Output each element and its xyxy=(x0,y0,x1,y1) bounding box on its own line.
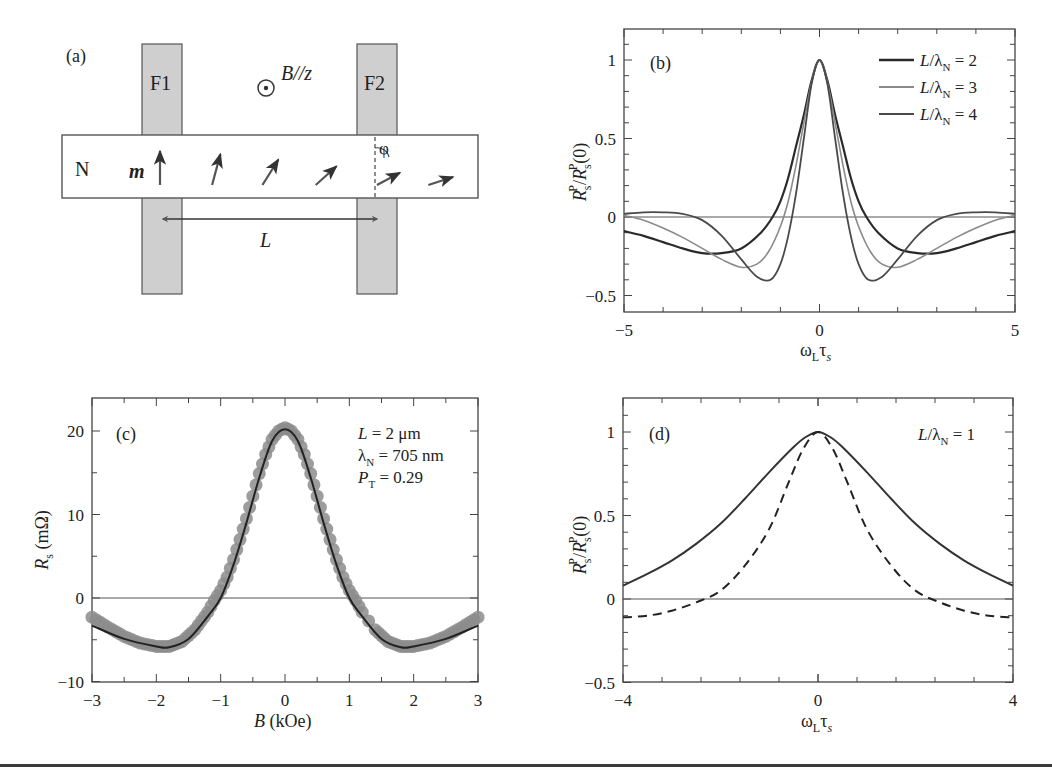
panel-b-xlabel: ωLτs xyxy=(800,340,831,364)
dashed-curve xyxy=(623,432,1013,617)
svg-text:0: 0 xyxy=(608,208,617,227)
svg-text:10: 10 xyxy=(67,506,84,525)
svg-text:ωLτs: ωLτs xyxy=(801,711,832,735)
channel-label: N xyxy=(75,158,89,180)
figure: (a) F1 F2 N B//z m φ L (b) L/λN = 2L/λN … xyxy=(0,0,1052,768)
svg-text:1: 1 xyxy=(607,423,616,442)
angle-label: φ xyxy=(379,139,389,158)
channel-n xyxy=(62,135,478,198)
svg-text:20: 20 xyxy=(67,422,84,441)
panel-d-curves xyxy=(623,432,1013,617)
svg-text:−3: −3 xyxy=(83,691,101,710)
svg-text:L/λN = 4: L/λN = 4 xyxy=(919,105,977,127)
magnetization-label: m xyxy=(129,160,145,182)
svg-text:−4: −4 xyxy=(614,691,633,710)
svg-text:−2: −2 xyxy=(147,691,165,710)
svg-text:0.5: 0.5 xyxy=(595,130,616,149)
panel-d-chart: (d) L/λN = 1 RsP/RsP(0) ωLτs −404−0.500.… xyxy=(566,398,1018,735)
svg-text:B (kOe): B (kOe) xyxy=(254,711,311,732)
svg-text:0: 0 xyxy=(607,590,616,609)
solid-curve xyxy=(623,432,1013,586)
svg-text:ωLτs: ωLτs xyxy=(800,340,831,364)
field-out-of-plane-icon xyxy=(258,80,274,96)
panel-d-ylabel: RsP/RsP(0) xyxy=(566,516,594,576)
svg-text:0: 0 xyxy=(76,589,85,608)
bottom-rule xyxy=(0,764,1052,767)
panel-c-ylabel: Rs (mΩ) xyxy=(32,510,56,571)
panel-d-annotation: L/λN = 1 xyxy=(917,425,975,447)
panel-c-chart: (c) L = 2 μm λN = 705 nm PT = 0.29 Rs (m… xyxy=(32,398,485,732)
panel-b-label: (b) xyxy=(650,53,671,74)
svg-text:4: 4 xyxy=(1009,691,1018,710)
length-label: L xyxy=(259,229,271,251)
svg-text:−10: −10 xyxy=(57,673,84,692)
data-point xyxy=(472,611,485,624)
svg-text:−5: −5 xyxy=(615,321,633,340)
svg-text:PT = 0.29: PT = 0.29 xyxy=(357,468,423,490)
svg-text:−0.5: −0.5 xyxy=(585,287,616,306)
svg-text:1: 1 xyxy=(608,51,617,70)
svg-text:L = 2 μm: L = 2 μm xyxy=(357,424,421,443)
svg-text:−1: −1 xyxy=(212,691,230,710)
panel-d-xlabel: ωLτs xyxy=(801,711,832,735)
panel-c-xlabel: B (kOe) xyxy=(254,711,311,732)
panel-b-chart: (b) L/λN = 2L/λN = 3L/λN = 4 RsP/RsP(0) … xyxy=(566,29,1019,364)
svg-text:RsP/RsP(0): RsP/RsP(0) xyxy=(566,143,594,203)
panel-a-label: (a) xyxy=(66,46,86,67)
svg-text:2: 2 xyxy=(409,691,418,710)
panel-b-frame xyxy=(624,29,1015,312)
svg-text:1: 1 xyxy=(345,691,354,710)
svg-text:L/λN = 2: L/λN = 2 xyxy=(919,51,977,73)
panel-d-tick-labels: −404−0.500.51 xyxy=(584,423,1018,710)
svg-text:3: 3 xyxy=(474,691,483,710)
svg-text:0: 0 xyxy=(814,691,823,710)
electrode-f2-label: F2 xyxy=(364,72,385,94)
svg-text:0: 0 xyxy=(815,321,824,340)
field-label: B//z xyxy=(281,62,312,84)
panel-a-schematic: (a) F1 F2 N B//z m φ L xyxy=(62,44,478,294)
electrode-f1-label: F1 xyxy=(150,72,171,94)
svg-text:0.5: 0.5 xyxy=(594,507,615,526)
panel-b-ticks xyxy=(624,29,1015,312)
svg-text:L/λN = 3: L/λN = 3 xyxy=(919,78,977,100)
svg-text:0: 0 xyxy=(281,691,290,710)
panel-b-legend: L/λN = 2L/λN = 3L/λN = 4 xyxy=(879,51,977,127)
svg-text:−0.5: −0.5 xyxy=(584,674,615,693)
panel-c-annotations: L = 2 μm λN = 705 nm PT = 0.29 xyxy=(357,424,444,490)
svg-text:L/λN = 1: L/λN = 1 xyxy=(917,425,975,447)
panel-c-label: (c) xyxy=(116,424,136,445)
svg-text:5: 5 xyxy=(1011,321,1020,340)
svg-text:λN = 705 nm: λN = 705 nm xyxy=(358,446,444,468)
panel-b-ylabel: RsP/RsP(0) xyxy=(566,143,594,203)
svg-text:RsP/RsP(0): RsP/RsP(0) xyxy=(566,516,594,576)
panel-d-label: (d) xyxy=(649,424,670,445)
svg-text:Rs (mΩ): Rs (mΩ) xyxy=(32,510,56,571)
panel-c-tick-labels: −3−2−10123−1001020 xyxy=(57,422,482,710)
